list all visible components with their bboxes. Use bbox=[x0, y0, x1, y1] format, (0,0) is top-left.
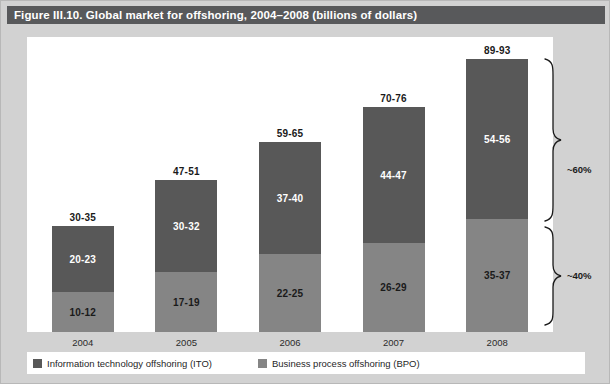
bar-total-label: 47-51 bbox=[173, 166, 200, 177]
legend-item-bpo[interactable]: Business process offshoring (BPO) bbox=[258, 358, 420, 369]
bar-segment-label-bpo: 22-25 bbox=[277, 288, 304, 299]
bar-stack: 54-56 35-37 bbox=[466, 59, 528, 332]
bar-total-label: 30-35 bbox=[70, 212, 97, 223]
bar-segment-bpo[interactable]: 10-12 bbox=[52, 292, 114, 332]
bar-segment-ito[interactable]: 44-47 bbox=[363, 107, 425, 243]
annotation-share-bpo: ~40% bbox=[567, 270, 592, 281]
bar-segment-ito[interactable]: 30-32 bbox=[155, 180, 217, 272]
bar-group-2004: 30-35 20-23 10-12 bbox=[43, 37, 123, 332]
x-axis-tick-2004: 2004 bbox=[43, 337, 123, 348]
bar-segment-ito[interactable]: 20-23 bbox=[52, 226, 114, 292]
bar-stack: 37-40 22-25 bbox=[259, 142, 321, 332]
bar-segment-label-ito: 37-40 bbox=[277, 193, 304, 204]
x-axis-tick-2008: 2008 bbox=[457, 337, 537, 348]
annotation-share-ito: ~60% bbox=[567, 164, 592, 175]
legend-item-ito[interactable]: Information technology offshoring (ITO) bbox=[33, 358, 212, 369]
bar-segment-bpo[interactable]: 17-19 bbox=[155, 272, 217, 332]
legend-swatch-icon-bpo bbox=[258, 359, 267, 368]
bar-segment-label-ito: 54-56 bbox=[484, 134, 511, 145]
bar-segment-bpo[interactable]: 35-37 bbox=[466, 219, 528, 332]
bar-total-label: 59-65 bbox=[277, 128, 304, 139]
bar-group-2008: 89-93 54-56 35-37 bbox=[457, 37, 537, 332]
bar-segment-label-bpo: 17-19 bbox=[173, 297, 200, 308]
bar-segment-label-ito: 30-32 bbox=[173, 221, 200, 232]
figure-container: Figure III.10. Global market for offshor… bbox=[0, 0, 610, 384]
bar-segment-label-bpo: 35-37 bbox=[484, 270, 511, 281]
bar-segment-ito[interactable]: 37-40 bbox=[259, 142, 321, 254]
x-axis-labels: 2004 2005 2006 2007 2008 bbox=[27, 333, 553, 351]
bar-segment-label-ito: 20-23 bbox=[70, 254, 97, 265]
bar-group-2005: 47-51 30-32 17-19 bbox=[146, 37, 226, 332]
bar-segment-bpo[interactable]: 26-29 bbox=[363, 243, 425, 332]
bar-group-2006: 59-65 37-40 22-25 bbox=[250, 37, 330, 332]
page-title: Figure III.10. Global market for offshor… bbox=[14, 9, 417, 21]
legend-label-bpo: Business process offshoring (BPO) bbox=[272, 358, 420, 369]
legend-swatch-icon-ito bbox=[33, 359, 42, 368]
x-axis-tick-2006: 2006 bbox=[250, 337, 330, 348]
bar-segment-label-ito: 44-47 bbox=[380, 170, 407, 181]
x-axis-tick-2007: 2007 bbox=[354, 337, 434, 348]
bar-total-label: 89-93 bbox=[484, 45, 511, 56]
bar-total-label: 70-76 bbox=[380, 93, 407, 104]
bars-layer: 30-35 20-23 10-12 47-51 30-32 17-19 bbox=[27, 37, 553, 332]
bar-segment-bpo[interactable]: 22-25 bbox=[259, 254, 321, 332]
bar-stack: 20-23 10-12 bbox=[52, 226, 114, 332]
x-axis-tick-2005: 2005 bbox=[146, 337, 226, 348]
bar-stack: 44-47 26-29 bbox=[363, 107, 425, 332]
figure-title-bar: Figure III.10. Global market for offshor… bbox=[7, 6, 605, 24]
bar-segment-label-bpo: 10-12 bbox=[70, 307, 97, 318]
legend: Information technology offshoring (ITO) … bbox=[27, 352, 585, 374]
bar-segment-label-bpo: 26-29 bbox=[380, 282, 407, 293]
legend-label-ito: Information technology offshoring (ITO) bbox=[47, 358, 212, 369]
bar-group-2007: 70-76 44-47 26-29 bbox=[354, 37, 434, 332]
bar-segment-ito[interactable]: 54-56 bbox=[466, 59, 528, 219]
bar-stack: 30-32 17-19 bbox=[155, 180, 217, 332]
